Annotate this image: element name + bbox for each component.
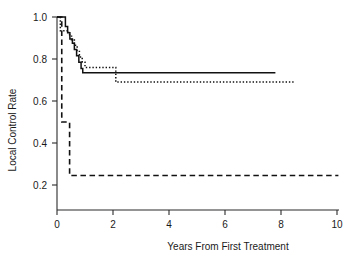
x-axis: 0 2 4 6 8 10 Years From First Treatment xyxy=(54,210,343,252)
y-axis: 1.0 0.8 0.6 0.4 0.2 Local Control Rate xyxy=(7,12,57,210)
survival-chart: 1.0 0.8 0.6 0.4 0.2 Local Control Rate 0… xyxy=(0,0,356,262)
x-axis-title: Years From First Treatment xyxy=(167,241,289,252)
y-axis-title: Local Control Rate xyxy=(7,88,18,171)
y-tick-label-5: 0.2 xyxy=(33,180,47,191)
x-tick-label-1: 0 xyxy=(54,219,60,230)
y-tick-label-2: 0.8 xyxy=(33,54,47,65)
x-tick-label-3: 4 xyxy=(166,219,172,230)
x-tick-label-4: 6 xyxy=(222,219,228,230)
y-tick-marks xyxy=(52,17,57,185)
x-tick-marks xyxy=(57,210,337,215)
y-tick-label-1: 1.0 xyxy=(33,12,47,23)
y-tick-label-3: 0.6 xyxy=(33,96,47,107)
x-tick-label-6: 10 xyxy=(331,219,343,230)
survival-curve-solid xyxy=(57,17,275,73)
x-tick-label-2: 2 xyxy=(110,219,116,230)
x-tick-label-5: 8 xyxy=(278,219,284,230)
y-tick-label-4: 0.4 xyxy=(33,138,47,149)
survival-curve-dashed xyxy=(57,17,338,176)
plot-area xyxy=(57,17,338,176)
